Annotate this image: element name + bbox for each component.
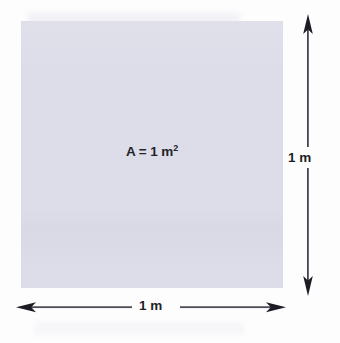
dimension-arrows [0,0,340,343]
vertical-dimension-label: 1 m [287,147,313,168]
figure-canvas: A = 1 m2 [0,0,340,343]
horizontal-dimension-label: 1 m [133,297,168,314]
area-label: A = 1 m2 [0,144,304,159]
area-label-text: A = 1 m [126,144,173,159]
area-label-exponent: 2 [173,143,178,153]
